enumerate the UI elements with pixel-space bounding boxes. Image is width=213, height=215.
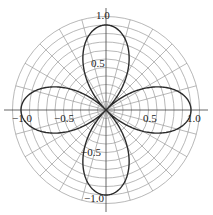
x-tick-0.5: 0.5: [143, 112, 157, 124]
grid-radial-line: [106, 29, 153, 110]
grid-radial-line: [106, 63, 187, 110]
x-tick-1.0: 1.0: [187, 112, 201, 124]
grid-radial-line: [106, 110, 172, 176]
y-tick-neg-0.5: −0.5: [81, 146, 101, 158]
x-tick-neg-0.5: −0.5: [54, 112, 74, 124]
y-tick-1.0: 1.0: [96, 9, 110, 21]
grid-radial-line: [25, 63, 106, 110]
grid-radial-line: [40, 44, 106, 110]
y-tick-neg-1.0: −1.0: [84, 192, 104, 204]
x-tick-neg-1.0: −1.0: [12, 112, 32, 124]
y-tick-0.5: 0.5: [91, 57, 105, 69]
polar-plot: 1.00.5−0.5−1.0−1.0−0.50.51.0: [0, 0, 213, 215]
grid-radial-line: [106, 44, 172, 110]
grid-radial-line: [59, 29, 106, 110]
